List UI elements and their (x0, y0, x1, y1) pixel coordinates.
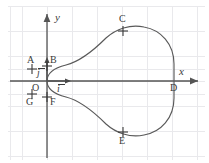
figure-canvas: x y j i A B C D E F G O (0, 0, 209, 163)
y-axis-label: y (55, 12, 60, 23)
marker-A (27, 64, 37, 74)
unit-vector-i-arrowhead (65, 78, 71, 83)
point-label-D: D (170, 83, 177, 93)
point-label-A: A (27, 55, 34, 65)
unit-vector-i-label: i (57, 84, 65, 94)
point-label-G: G (26, 97, 33, 107)
point-label-C: C (119, 14, 126, 24)
point-label-B: B (50, 55, 57, 65)
x-axis-label: x (179, 66, 184, 77)
point-label-F: F (50, 97, 56, 107)
y-axis-arrowhead (44, 14, 51, 22)
unit-vector-j-label: j (37, 68, 45, 78)
point-label-O: O (32, 83, 39, 93)
point-label-E: E (119, 136, 125, 146)
